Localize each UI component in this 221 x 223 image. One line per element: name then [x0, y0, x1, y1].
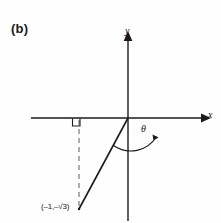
- coordinate-plane-diagram: [0, 0, 221, 223]
- angle-arc-arrowhead-icon: [153, 135, 159, 141]
- x-axis-label: x: [208, 110, 212, 120]
- y-axis-label: y: [125, 26, 129, 36]
- angle-arc: [114, 137, 157, 152]
- panel-label: (b): [11, 22, 28, 35]
- point-coordinate-label: (–1,–√3): [41, 203, 69, 211]
- terminal-ray: [79, 118, 128, 209]
- plotted-point-marker: [78, 208, 80, 210]
- figure-container: (b) y x θ (–1,–√3): [0, 0, 221, 223]
- theta-angle-label: θ: [141, 124, 146, 134]
